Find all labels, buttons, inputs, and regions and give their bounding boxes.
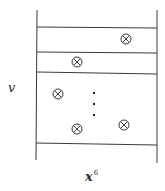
left-boundary-line (36, 10, 37, 160)
horizontal-line-2 (37, 52, 157, 53)
diagram-canvas: v x6 (0, 0, 165, 191)
horizontal-axis-exponent: 6 (94, 169, 98, 177)
horizontal-line-1 (37, 27, 157, 28)
vertical-axis-label: v (8, 81, 15, 94)
circle-cross-icon (72, 57, 82, 67)
ellipsis-dot (93, 92, 95, 94)
horizontal-axis-base: x (85, 169, 93, 184)
ellipsis-dot (93, 103, 95, 105)
circle-cross-icon (121, 34, 131, 44)
circle-cross-icon (53, 89, 63, 99)
ellipsis-dot (93, 114, 95, 116)
circle-cross-icon (119, 120, 129, 130)
horizontal-line-4 (36, 143, 157, 145)
horizontal-line-3 (37, 72, 157, 74)
diagram-svg (0, 0, 165, 191)
circle-cross-icon (72, 124, 82, 134)
horizontal-axis-label: x6 (85, 170, 98, 183)
